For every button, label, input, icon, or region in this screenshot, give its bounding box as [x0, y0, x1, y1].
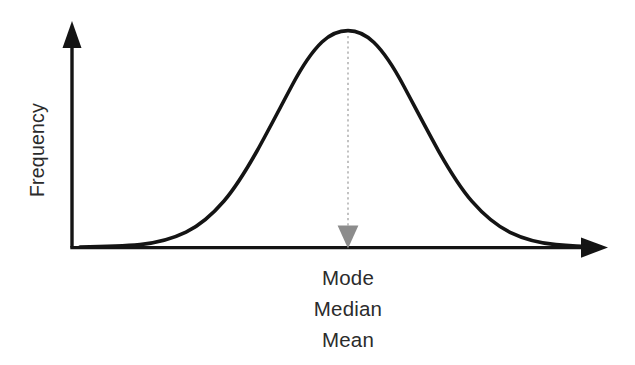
y-axis-group	[63, 21, 82, 248]
center-arrow-icon	[338, 226, 359, 249]
distribution-chart: Frequency Mode Median Mean	[0, 0, 635, 365]
center-pointer-annotation	[338, 36, 359, 249]
normal-distribution-curve	[80, 31, 600, 247]
label-median: Median	[314, 297, 382, 320]
y-axis-label: Frequency	[26, 103, 48, 197]
y-axis-arrow-icon	[63, 21, 82, 48]
label-mode: Mode	[322, 266, 374, 289]
figure-canvas: Frequency Mode Median Mean	[0, 0, 635, 365]
label-mean: Mean	[322, 328, 374, 351]
